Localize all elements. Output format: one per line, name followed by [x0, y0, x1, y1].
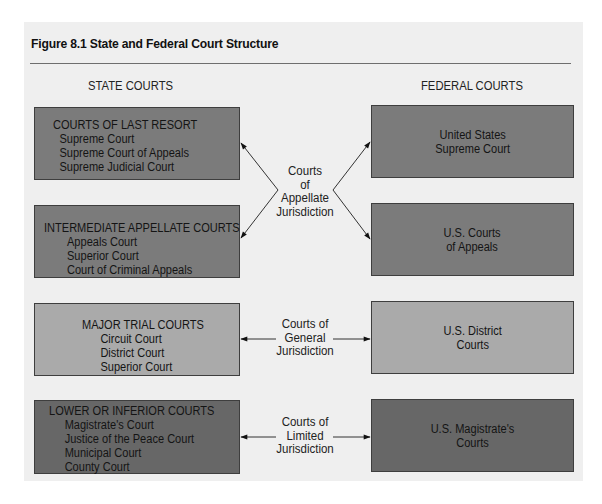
label-line: Courts	[268, 165, 342, 179]
label-line: Limited	[268, 430, 342, 444]
label-line: Courts of	[268, 318, 342, 332]
label-line: Jurisdiction	[268, 206, 342, 220]
label-limited-jurisdiction: Courts of Limited Jurisdiction	[268, 416, 342, 457]
label-line: Appellate	[268, 192, 342, 206]
label-line: General	[268, 332, 342, 346]
label-line: Jurisdiction	[268, 345, 342, 359]
label-appellate-jurisdiction: Courts of Appellate Jurisdiction	[268, 165, 342, 219]
label-line: Jurisdiction	[268, 443, 342, 457]
label-line: of	[268, 179, 342, 193]
label-general-jurisdiction: Courts of General Jurisdiction	[268, 318, 342, 359]
label-line: Courts of	[268, 416, 342, 430]
